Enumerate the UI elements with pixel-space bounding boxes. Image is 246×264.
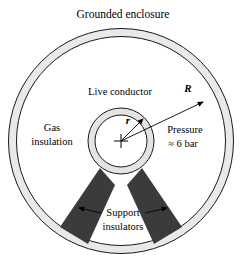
pressure-label-line2: ≈ 6 bar xyxy=(168,138,198,149)
gas-insulation-label-line1: Gas xyxy=(44,122,60,133)
grounded-enclosure-label: Grounded enclosure xyxy=(77,8,170,20)
pressure-label-line1: Pressure xyxy=(167,124,203,135)
support-insulators-label-line1: Support xyxy=(106,207,139,218)
inner-radius-label: r xyxy=(126,114,131,126)
gis-cross-section-figure: Grounded enclosure r R Live conductor Ga… xyxy=(0,0,246,264)
cross-section-canvas: Grounded enclosure r R Live conductor Ga… xyxy=(0,0,246,264)
live-conductor-label: Live conductor xyxy=(88,86,152,97)
gas-insulation-label-line2: insulation xyxy=(31,136,73,147)
support-insulators-label-line2: insulators xyxy=(103,221,144,232)
outer-radius-label: R xyxy=(183,82,191,94)
